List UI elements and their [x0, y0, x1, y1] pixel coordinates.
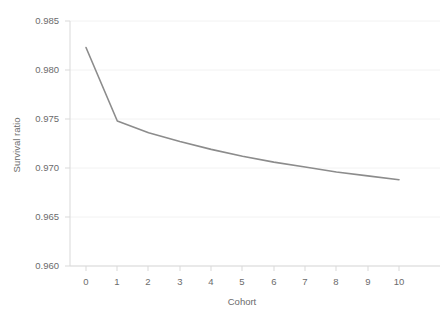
x-tick-label-2: 2 — [145, 276, 150, 287]
x-tick-label-3: 3 — [177, 276, 182, 287]
x-tick-label-5: 5 — [239, 276, 244, 287]
line-chart: 0.985 0.980 0.975 0.970 0.965 0.960 0 1 … — [0, 0, 448, 323]
chart-canvas: 0.985 0.980 0.975 0.970 0.965 0.960 0 1 … — [0, 0, 448, 323]
x-tick-label-1: 1 — [114, 276, 119, 287]
x-tick-label-9: 9 — [365, 276, 370, 287]
y-tick-label-0960: 0.960 — [35, 260, 59, 271]
y-tick-label-0985: 0.985 — [35, 15, 59, 26]
y-tick-label-0980: 0.980 — [35, 64, 59, 75]
x-tick-label-8: 8 — [333, 276, 338, 287]
x-tick-label-4: 4 — [208, 276, 213, 287]
chart-background — [0, 0, 448, 323]
y-tick-label-0975: 0.975 — [35, 113, 59, 124]
y-axis-title: Survival ratio — [11, 118, 22, 173]
x-tick-label-0: 0 — [83, 276, 88, 287]
y-tick-label-0965: 0.965 — [35, 211, 59, 222]
x-tick-label-6: 6 — [271, 276, 276, 287]
x-axis-title: Cohort — [228, 296, 257, 307]
x-tick-label-7: 7 — [302, 276, 307, 287]
x-tick-label-10: 10 — [394, 276, 405, 287]
y-tick-label-0970: 0.970 — [35, 162, 59, 173]
